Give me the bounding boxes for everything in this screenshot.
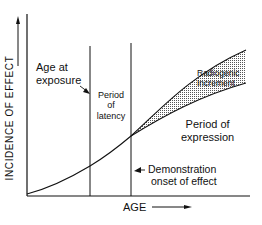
radiogenic-increment-label: Radiogenic Increment (197, 69, 240, 89)
expression-line2: expression (181, 131, 234, 144)
age-at-exposure-label: Age at exposure (36, 61, 81, 86)
period-of-latency-label: Period of latency (94, 90, 128, 121)
onset-pointer-arrow-icon (134, 167, 145, 173)
y-axis-arrow-icon (16, 16, 20, 66)
exposure-pointer-arrow-icon (80, 86, 90, 94)
latency-line3: latency (94, 111, 128, 121)
y-axis-label: INCIDENCE OF EFFECT (4, 56, 15, 181)
x-axis-label: AGE (123, 201, 146, 214)
age-at-exposure-line2: exposure (36, 74, 81, 87)
incidence-vs-age-diagram (0, 0, 262, 225)
age-at-exposure-line1: Age at (36, 61, 81, 74)
demonstration-onset-label: Demonstration onset of effect (148, 163, 217, 187)
onset-line2: onset of effect (148, 175, 217, 187)
expression-line1: Period of (181, 118, 234, 131)
x-axis-arrow-icon (152, 205, 192, 209)
latency-line2: of (94, 100, 128, 110)
onset-line1: Demonstration (148, 163, 217, 175)
period-of-expression-label: Period of expression (181, 118, 234, 143)
radiogenic-line2: Increment (197, 79, 240, 89)
latency-line1: Period (94, 90, 128, 100)
